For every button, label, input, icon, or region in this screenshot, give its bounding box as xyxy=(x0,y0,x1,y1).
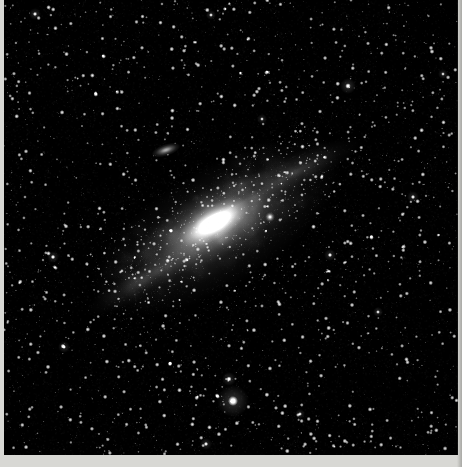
astrophoto-image xyxy=(0,0,462,467)
sky-plate xyxy=(4,0,458,455)
star-field-layer xyxy=(4,0,458,455)
